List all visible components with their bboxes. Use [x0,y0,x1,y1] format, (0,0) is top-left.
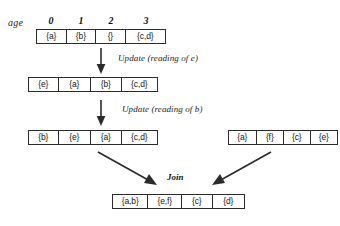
column-header-0: 0 [36,15,66,26]
table-row-initial: {a} {b} {} {c,d} [36,29,166,44]
column-header-1: 1 [66,15,96,26]
cell-update-e-2: {b} [91,78,122,91]
cell-update-e-3: {c,d} [122,78,157,91]
cell-initial-0: {a} [37,30,67,43]
cell-other-3: {e} [311,131,338,144]
cell-joined-0: {a,b} [113,195,148,208]
cell-other-0: {a} [229,131,257,144]
arrow-diagonal-right-join [205,150,275,190]
arrow-down-update-e [94,48,108,76]
column-header-row: 0 1 2 3 [36,15,166,26]
cell-initial-1: {b} [67,30,97,43]
caption-join: Join [167,172,184,182]
arrow-down-update-b [94,100,108,128]
cell-update-e-0: {e} [29,78,59,91]
cell-initial-3: {c,d} [126,30,165,43]
age-label: age [8,17,23,28]
cell-other-1: {f} [257,131,285,144]
cell-update-b-0: {b} [29,131,59,144]
table-row-other-replica: {a} {f} {c} {e} [228,130,338,145]
column-header-3: 3 [126,15,166,26]
cell-update-b-2: {a} [91,131,122,144]
caption-update-e: Update (reading of e) [118,53,198,63]
arrow-diagonal-left-join [96,150,166,190]
cell-initial-2: {} [96,30,126,43]
table-row-joined: {a,b} {e,f} {c} {d} [112,194,245,209]
table-row-after-update-b: {b} {e} {a} {c,d} [28,130,158,145]
diagram-canvas: age 0 1 2 3 {a} {b} {} {c,d} Update (rea… [0,0,340,226]
cell-update-b-1: {e} [59,131,92,144]
cell-joined-3: {d} [213,195,245,208]
cell-joined-1: {e,f} [148,195,182,208]
column-header-2: 2 [96,15,126,26]
caption-update-b: Update (reading of b) [122,104,203,114]
table-row-after-update-e: {e} {a} {b} {c,d} [28,77,158,92]
cell-other-2: {c} [284,131,311,144]
cell-update-b-3: {c,d} [122,131,157,144]
cell-joined-2: {c} [182,195,213,208]
cell-update-e-1: {a} [59,78,92,91]
